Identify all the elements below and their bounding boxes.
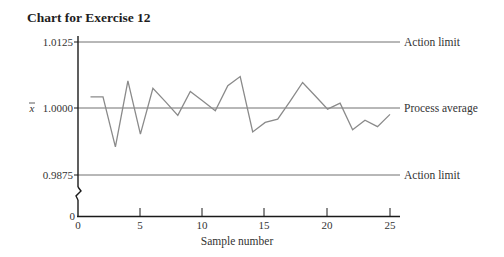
upper-action-limit-label: Action limit — [404, 36, 461, 48]
reference-lines — [78, 42, 400, 175]
x-tick-label: 15 — [259, 219, 271, 231]
control-chart: 1.0125 1.0000 0.9875 0 x 0 5 10 15 20 25… — [0, 0, 504, 257]
y-tick-label: 1.0125 — [43, 36, 74, 48]
x-axis — [77, 208, 400, 217]
lower-action-limit-label: Action limit — [404, 169, 461, 181]
x-tick-label: 10 — [197, 219, 209, 231]
x-tick-label: 25 — [385, 219, 397, 231]
x-tick-label: 20 — [322, 219, 334, 231]
axis-break-icon — [76, 187, 81, 200]
x-tick-label: 5 — [137, 219, 143, 231]
x-axis-label: Sample number — [201, 235, 274, 248]
sample-mean-line — [91, 77, 391, 147]
process-average-label: Process average — [404, 102, 478, 115]
y-tick-label: 0.9875 — [43, 169, 74, 181]
y-tick-label: 1.0000 — [43, 102, 74, 114]
y-axis — [74, 36, 81, 217]
x-tick-label: 0 — [75, 219, 81, 231]
y-axis-label: x — [29, 102, 35, 114]
